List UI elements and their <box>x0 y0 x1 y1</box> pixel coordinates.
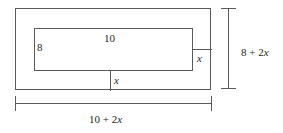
inner-height-label: 8 <box>37 42 43 53</box>
horizontal-dimension-tick-right <box>211 96 212 111</box>
bottom-border-label: x <box>114 75 119 86</box>
right-border-divider-line <box>193 49 212 50</box>
inner-width-label: 10 <box>104 33 115 44</box>
overall-height-label: 8 + 2x <box>241 47 269 58</box>
right-border-label: x <box>197 53 202 64</box>
bottom-border-label-text: x <box>114 74 119 86</box>
horizontal-dimension-line <box>15 103 212 104</box>
vertical-dimension-tick-top <box>221 8 236 9</box>
right-border-label-text: x <box>197 52 202 64</box>
vertical-dimension-line <box>228 8 229 89</box>
overall-width-label: 10 + 2x <box>89 114 122 125</box>
vertical-dimension-tick-bottom <box>221 88 236 89</box>
bottom-border-divider-line <box>110 71 111 91</box>
horizontal-dimension-tick-left <box>15 96 16 111</box>
geometry-figure: 8 10 x x 8 + 2x 10 + 2x <box>0 0 283 133</box>
